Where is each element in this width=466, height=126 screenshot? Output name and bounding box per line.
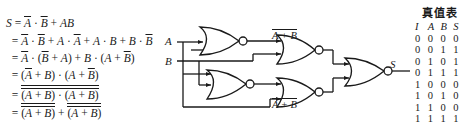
cell: 0 <box>415 44 428 56</box>
cell: 1 <box>428 56 441 68</box>
header-i: I <box>415 21 428 33</box>
truth-table: 真值表 I A B S 0000 0011 0101 0111 1000 101… <box>415 4 466 125</box>
cell: 0 <box>440 102 453 114</box>
cell: 1 <box>428 113 441 125</box>
cell: 0 <box>453 79 466 91</box>
table-row: 1010 <box>415 90 466 102</box>
nor-gate-3 <box>207 70 246 99</box>
equation-line-3: = A · (B + A) + B · (A + B) <box>6 52 135 64</box>
label-top-expression: A + B <box>272 29 297 41</box>
cell: 1 <box>428 102 441 114</box>
cell: 0 <box>428 33 441 45</box>
equation-line-6: = (A + B) + (A + B) <box>6 103 101 119</box>
cell: 0 <box>428 90 441 102</box>
truth-table-header: I A B S <box>415 21 466 33</box>
cell: 1 <box>453 56 466 68</box>
cell: 1 <box>440 113 453 125</box>
cell: 0 <box>440 33 453 45</box>
label-bottom-expression: A + B <box>272 98 297 110</box>
table-row: 1100 <box>415 102 466 114</box>
input-label-a: A <box>165 35 172 47</box>
header-b: B <box>440 21 453 33</box>
input-label-b: B <box>165 55 172 67</box>
cell: 1 <box>453 113 466 125</box>
cell: 0 <box>453 33 466 45</box>
nor-gate-5 <box>345 58 384 86</box>
table-row: 0000 <box>415 33 466 45</box>
cell: 1 <box>415 90 428 102</box>
cell: 1 <box>440 67 453 79</box>
cell: 0 <box>415 33 428 45</box>
cell: 1 <box>440 44 453 56</box>
cell: 0 <box>440 79 453 91</box>
truth-table-title: 真值表 <box>422 4 466 20</box>
table-row: 0101 <box>415 56 466 68</box>
nor-gate-1 <box>200 27 239 55</box>
cell: 1 <box>453 67 466 79</box>
cell: 0 <box>415 56 428 68</box>
header-a: A <box>428 21 441 33</box>
cell: 1 <box>453 44 466 56</box>
cell: 1 <box>415 113 428 125</box>
cell: 1 <box>415 102 428 114</box>
table-row: 1111 <box>415 113 466 125</box>
cell: 1 <box>440 90 453 102</box>
equation-line-2: = A · B + A · A + A · B + B · B <box>6 35 153 47</box>
cell: 0 <box>453 102 466 114</box>
table-row: 0011 <box>415 44 466 56</box>
cell: 0 <box>453 90 466 102</box>
equation-line-1: S = A · B + AB <box>6 17 74 29</box>
cell: 0 <box>428 79 441 91</box>
table-row: 0111 <box>415 67 466 79</box>
cell: 0 <box>428 44 441 56</box>
cell: 1 <box>415 79 428 91</box>
output-label-s: S <box>390 58 396 70</box>
table-row: 1000 <box>415 79 466 91</box>
cell: 0 <box>415 67 428 79</box>
equation-line-5: = (A + B) · (A + B) <box>6 85 99 101</box>
equation-line-4: = (A + B) · (A + B) <box>6 69 99 81</box>
truth-table-grid: I A B S 0000 0011 0101 0111 1000 1010 11… <box>415 21 466 125</box>
cell: 1 <box>428 67 441 79</box>
header-s: S <box>453 21 466 33</box>
cell: 0 <box>440 56 453 68</box>
